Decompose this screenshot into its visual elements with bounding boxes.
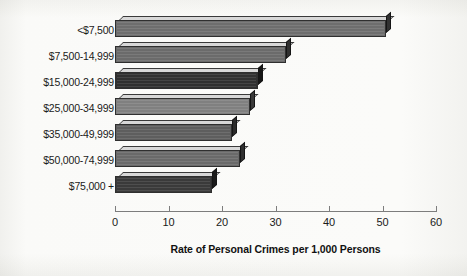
x-tick-label: 0 [95,216,135,228]
bar [115,176,212,193]
x-tick-mark [383,206,384,212]
bar [115,124,232,141]
x-tick-mark [222,206,223,212]
x-tick-label: 10 [149,216,189,228]
bar-front-face [115,46,286,63]
bar [115,20,386,37]
x-tick-mark [436,206,437,212]
x-tick-label: 60 [416,216,456,228]
bar-front-face [115,124,232,141]
x-tick-label: 30 [256,216,296,228]
bar [115,46,286,63]
x-tick-mark [169,206,170,212]
category-label: $75,000 + [0,180,114,192]
category-label: $15,000-24,999 [0,76,114,88]
category-label: $25,000-34,999 [0,102,114,114]
x-tick-label: 40 [309,216,349,228]
bar-front-face [115,176,212,193]
bar-front-face [115,150,240,167]
x-axis-title: Rate of Personal Crimes per 1,000 Person… [115,243,436,255]
category-label: <$7,500 [0,24,114,36]
bar [115,72,258,89]
bar-side-face [240,142,245,163]
x-tick-label: 50 [363,216,403,228]
bar-side-face [212,168,217,189]
bar-front-face [115,98,250,115]
x-tick-label: 20 [202,216,242,228]
bar-side-face [286,38,291,59]
bar [115,98,250,115]
bar-side-face [386,12,391,33]
bar-side-face [232,116,237,137]
bar-chart-figure: <$7,500 $7,500-14,999 $15,000-24,999 $25… [0,0,467,276]
x-tick-mark [115,206,116,212]
category-label: $7,500-14,999 [0,50,114,62]
bar-front-face [115,72,258,89]
bar [115,150,240,167]
x-tick-mark [276,206,277,212]
bar-front-face [115,20,386,37]
category-label: $50,000-74,999 [0,154,114,166]
x-tick-mark [329,206,330,212]
bar-side-face [250,90,255,111]
bar-side-face [258,64,263,85]
category-label: $35,000-49,999 [0,128,114,140]
plot-area: <$7,500 $7,500-14,999 $15,000-24,999 $25… [0,0,467,276]
